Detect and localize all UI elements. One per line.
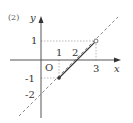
open-endpoint bbox=[94, 39, 98, 43]
tick-x3: 3 bbox=[93, 63, 99, 74]
x-axis-arrow-icon bbox=[114, 58, 121, 63]
tick-x1: 1 bbox=[56, 47, 62, 58]
coordinate-graph: (2) y x O 1 2 3 1 -1 -2 bbox=[0, 0, 133, 123]
tick-yneg2: -2 bbox=[25, 89, 35, 100]
dashed-line bbox=[19, 17, 118, 116]
origin-label: O bbox=[45, 62, 53, 73]
y-axis-label: y bbox=[29, 12, 36, 23]
closed-endpoint bbox=[57, 76, 61, 80]
problem-label: (2) bbox=[8, 13, 19, 22]
y-axis-arrow-icon bbox=[39, 16, 44, 23]
x-axis-label: x bbox=[114, 63, 120, 74]
tick-yneg1: -1 bbox=[25, 73, 35, 84]
tick-x2: 2 bbox=[72, 47, 78, 58]
tick-y1: 1 bbox=[31, 35, 37, 46]
